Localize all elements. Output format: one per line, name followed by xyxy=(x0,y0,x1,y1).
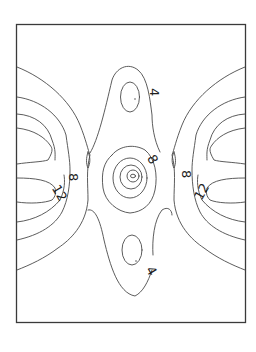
label-upper-4: 4 xyxy=(147,88,162,96)
plot-frame xyxy=(17,25,246,323)
right-contours xyxy=(172,67,245,270)
label-left-8: 8 xyxy=(66,173,81,181)
upper-minimum xyxy=(90,66,160,153)
label-center-8: 8 xyxy=(144,152,161,167)
label-lower-4: 4 xyxy=(143,264,160,279)
label-right-8: 8 xyxy=(179,170,194,178)
lower-minimum xyxy=(88,208,172,296)
contour-plot: 4 8 8 12 8 12 4 xyxy=(0,0,256,352)
left-contours xyxy=(17,67,90,270)
